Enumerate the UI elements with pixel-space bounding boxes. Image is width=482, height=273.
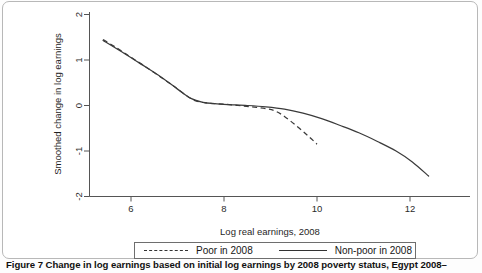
legend-item-non-poor[interactable]: Non-poor in 2008 [279, 243, 412, 258]
legend-label-poor: Poor in 2008 [196, 246, 253, 256]
chart-figure: 2 1 0 -1 -2 Smoothed change in log earni… [0, 0, 482, 262]
figure-caption-clip: Figure 7 Change in log earnings based on… [0, 259, 482, 273]
legend-swatch-dashed-icon [144, 250, 188, 251]
series-line-poor-in-2008 [103, 40, 317, 145]
y-tick-label-neg1: -1 [73, 147, 84, 155]
figure-caption: Figure 7 Change in log earnings based on… [6, 259, 478, 270]
legend-label-non-poor: Non-poor in 2008 [335, 246, 412, 256]
y-tick-label-2: 2 [73, 12, 84, 17]
chart-legend: Poor in 2008 Non-poor in 2008 [134, 242, 416, 259]
x-tick-label-12: 12 [405, 203, 416, 214]
series-line-non-poor-in-2008 [103, 40, 429, 176]
y-axis-title: Smoothed change in log earnings [52, 33, 63, 175]
x-tick-label-10: 10 [312, 203, 323, 214]
legend-item-poor[interactable]: Poor in 2008 [144, 243, 253, 258]
chart-plot-svg: 2 1 0 -1 -2 Smoothed change in log earni… [0, 0, 482, 262]
x-axis-title: Log real earnings, 2008 [220, 226, 320, 237]
y-tick-label-0: 0 [73, 103, 84, 108]
x-tick-label-8: 8 [221, 203, 226, 214]
x-tick-label-6: 6 [128, 203, 133, 214]
y-tick-label-1: 1 [73, 57, 84, 62]
legend-swatch-solid-icon [279, 250, 327, 251]
figure-page: 2 1 0 -1 -2 Smoothed change in log earni… [0, 0, 482, 273]
y-tick-label-neg2: -2 [73, 192, 84, 200]
